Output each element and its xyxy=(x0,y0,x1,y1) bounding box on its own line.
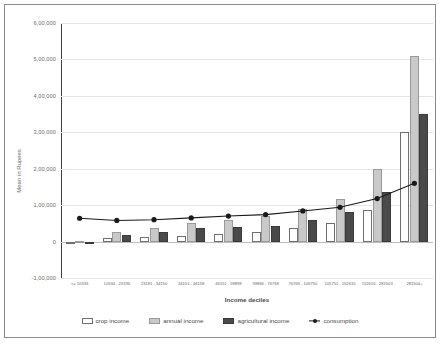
y-axis-tick-label: 3,00,000 xyxy=(33,129,56,135)
bar xyxy=(363,210,372,241)
bar xyxy=(214,234,223,241)
legend-item[interactable]: consumption xyxy=(309,317,358,324)
y-axis-tick-label: 6,00,000 xyxy=(33,20,56,26)
legend-label: agricultural income xyxy=(237,317,289,324)
legend-item[interactable]: annual income xyxy=(149,317,203,324)
y-axis-title: Mean in Rupees xyxy=(16,149,22,193)
bar-cluster: 23181 - 34150 xyxy=(135,23,172,278)
legend-swatch-annual-icon xyxy=(149,318,160,324)
bar-group xyxy=(61,23,98,278)
legend-item[interactable]: crop income xyxy=(82,317,130,324)
bar xyxy=(271,226,280,242)
bar-group xyxy=(210,23,247,278)
chart-area: Mean in Rupees 6,00,0005,00,0004,00,0003… xyxy=(5,5,435,337)
legend-swatch-crop-icon xyxy=(82,318,93,324)
x-axis-tick-label: 46151 - 59899 xyxy=(215,281,241,286)
bar xyxy=(252,232,261,241)
bar xyxy=(140,237,149,242)
x-axis-tick-label: 281504+ xyxy=(406,281,422,286)
bar xyxy=(261,216,270,242)
bar-group xyxy=(359,23,396,278)
bar xyxy=(382,192,391,241)
chart-legend: crop incomeannual incomeagricultural inc… xyxy=(5,317,435,324)
bar xyxy=(336,199,345,242)
y-axis-tick-label: 4,00,000 xyxy=(33,93,56,99)
y-axis-tick-label: -1,00,000 xyxy=(31,275,56,281)
bar-clusters: <= 1053310534 - 2319623181 - 3415034151 … xyxy=(61,23,433,278)
x-axis-tick-label: 152616 - 281503 xyxy=(362,281,393,286)
bar xyxy=(122,235,131,242)
bar xyxy=(373,169,382,242)
y-axis-tick-label: 1,00,000 xyxy=(33,202,56,208)
x-axis-tick-label: 59896 - 76768 xyxy=(252,281,278,286)
bar xyxy=(75,241,84,243)
bar-group xyxy=(173,23,210,278)
bar-cluster: 76769 - 105750 xyxy=(284,23,321,278)
bar-group xyxy=(321,23,358,278)
bar xyxy=(187,223,196,242)
bar xyxy=(400,132,409,241)
bar-cluster: <= 10533 xyxy=(61,23,98,278)
bar-cluster: 152616 - 281503 xyxy=(359,23,396,278)
bar-group xyxy=(396,23,433,278)
legend-swatch-line-icon xyxy=(309,318,320,324)
bar-group xyxy=(98,23,135,278)
bar xyxy=(66,242,75,244)
x-axis-tick-label: <= 10533 xyxy=(71,281,88,286)
x-axis-tick-label: 10534 - 23196 xyxy=(104,281,130,286)
x-axis-tick-label: 76769 - 105750 xyxy=(288,281,317,286)
bar xyxy=(224,220,233,242)
y-axis-tick-label: 0 xyxy=(53,239,56,245)
bar-group xyxy=(135,23,172,278)
legend-label: annual income xyxy=(163,317,203,324)
bar-cluster: 105751 - 152615 xyxy=(321,23,358,278)
legend-label: crop income xyxy=(96,317,130,324)
bar xyxy=(150,228,159,242)
bar xyxy=(419,114,428,242)
bar xyxy=(289,228,298,241)
bar xyxy=(196,228,205,241)
bar-group xyxy=(284,23,321,278)
bar-group xyxy=(247,23,284,278)
bar-cluster: 59896 - 76768 xyxy=(247,23,284,278)
legend-label: consumption xyxy=(323,317,358,324)
bar xyxy=(298,209,307,242)
x-axis-title: Income deciles xyxy=(61,296,433,303)
bar xyxy=(410,56,419,242)
bar xyxy=(233,227,242,242)
x-axis-tick-label: 105751 - 152615 xyxy=(325,281,356,286)
plot-area: 6,00,0005,00,0004,00,0003,00,0002,00,000… xyxy=(61,23,433,278)
chart-figure: Mean in Rupees 6,00,0005,00,0004,00,0003… xyxy=(4,4,436,338)
gridline xyxy=(61,278,433,279)
bar xyxy=(308,220,317,242)
bar xyxy=(345,212,354,242)
x-axis-tick-label: 23181 - 34150 xyxy=(141,281,167,286)
bar-cluster: 46151 - 59899 xyxy=(210,23,247,278)
bar-cluster: 34151 - 46158 xyxy=(173,23,210,278)
bar xyxy=(85,242,94,244)
bar xyxy=(103,238,112,241)
x-axis-tick-label: 34151 - 46158 xyxy=(178,281,204,286)
y-axis-tick-label: 2,00,000 xyxy=(33,166,56,172)
bar xyxy=(177,236,186,242)
bar xyxy=(159,232,168,241)
legend-swatch-agri-icon xyxy=(223,318,234,324)
y-axis-tick-label: 5,00,000 xyxy=(33,56,56,62)
bar-cluster: 10534 - 23196 xyxy=(98,23,135,278)
legend-item[interactable]: agricultural income xyxy=(223,317,289,324)
bar xyxy=(326,223,335,241)
bar-cluster: 281504+ xyxy=(396,23,433,278)
bar xyxy=(112,232,121,242)
